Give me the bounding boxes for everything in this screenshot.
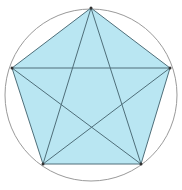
vertex-point-bottom-left	[42, 163, 45, 166]
vertex-point-right	[169, 67, 172, 70]
vertex-point-bottom-right	[140, 163, 143, 166]
pentagon-diagram	[0, 0, 182, 190]
vertex-point-left	[11, 67, 14, 70]
vertex-point-top	[90, 7, 93, 10]
